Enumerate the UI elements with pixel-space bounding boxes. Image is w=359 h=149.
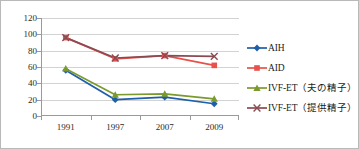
- x-axis-tick-label: 2007: [156, 122, 174, 132]
- y-axis-tick-label: 100: [24, 30, 38, 39]
- x-axis-tick-label: 1997: [106, 122, 124, 132]
- series-data-point: [62, 65, 69, 71]
- legend-item-ivf-et-husband: IVF-ET（夫の精子）: [246, 78, 358, 98]
- legend-item-ivf-et-donor: IVF-ET（提供精子）: [246, 98, 358, 118]
- series-line: [66, 70, 215, 103]
- x-axis-tick-labels: 1991 1997 2007 2009: [41, 122, 239, 136]
- chart-container: 120 100 80 60 40 20 0: [0, 0, 359, 149]
- plot-area: [41, 18, 239, 116]
- x-axis-tick: [238, 116, 239, 120]
- y-axis-tick-label: 60: [28, 63, 37, 72]
- legend-item-label: IVF-ET（提供精子）: [268, 103, 357, 113]
- series-line: [66, 38, 215, 66]
- x-axis-tick-label: 2009: [205, 122, 223, 132]
- legend-marker-triangle-icon: [246, 81, 268, 95]
- chart-inner: 120 100 80 60 40 20 0: [5, 5, 356, 146]
- legend-item-label: AIH: [268, 43, 285, 53]
- chart-legend: AIH AID IVF-ET（夫の精子） IVF-ET（提供精子）: [246, 38, 358, 118]
- legend-marker-square-icon: [246, 61, 268, 75]
- y-axis-tick-label: 120: [24, 14, 38, 23]
- legend-item-aih: AIH: [246, 38, 358, 58]
- x-axis-tick-label: 1991: [57, 122, 75, 132]
- x-axis-tick: [190, 116, 191, 120]
- x-axis-tick: [41, 116, 42, 120]
- legend-item-aid: AID: [246, 58, 358, 78]
- legend-marker-diamond-icon: [246, 41, 268, 55]
- x-axis-tick: [140, 116, 141, 120]
- legend-item-label: IVF-ET（夫の精子）: [268, 83, 357, 93]
- legend-marker-x-icon: [246, 101, 268, 115]
- x-axis-tick: [91, 116, 92, 120]
- series-data-point: [211, 63, 217, 69]
- series-plot: [41, 18, 239, 116]
- y-axis-tick-labels: 120 100 80 60 40 20 0: [13, 18, 37, 116]
- y-axis-tick-label: 20: [28, 96, 37, 105]
- y-axis-tick-label: 40: [28, 79, 37, 88]
- legend-item-label: AID: [268, 63, 285, 73]
- y-axis-tick-label: 80: [28, 47, 37, 56]
